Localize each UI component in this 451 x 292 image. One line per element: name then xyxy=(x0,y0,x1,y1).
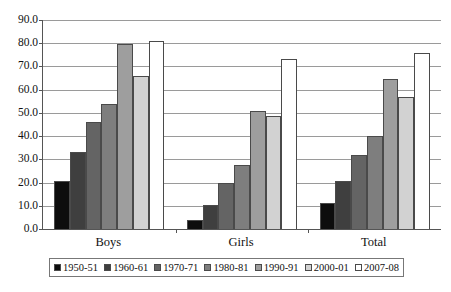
legend-label: 2000-01 xyxy=(314,262,349,273)
bar xyxy=(351,155,367,229)
bar xyxy=(398,97,414,229)
bar-set xyxy=(54,20,164,229)
y-tick-mark xyxy=(39,229,43,230)
bar xyxy=(367,136,383,229)
bar-chart: 90.080.070.060.050.040.030.020.010.00.0 … xyxy=(0,0,451,292)
bar xyxy=(133,76,149,229)
bar xyxy=(54,181,70,229)
x-axis-label: Girls xyxy=(175,233,308,253)
legend-swatch-icon xyxy=(355,264,362,271)
legend-swatch-icon xyxy=(305,264,312,271)
legend-swatch-icon xyxy=(154,264,161,271)
bar xyxy=(234,165,250,229)
y-tick-label: 20.0 xyxy=(0,177,38,189)
bar-set xyxy=(320,20,430,229)
bar xyxy=(335,181,351,229)
x-axis-labels: BoysGirlsTotal xyxy=(42,233,440,253)
legend-item[interactable]: 1980-81 xyxy=(204,262,248,273)
bar xyxy=(86,122,102,229)
legend-item[interactable]: 2007-08 xyxy=(355,262,399,273)
legend-label: 2007-08 xyxy=(364,262,399,273)
chart-legend: 1950-511960-611970-711980-811990-912000-… xyxy=(49,258,404,277)
x-axis-label: Total xyxy=(307,233,440,253)
bar xyxy=(218,183,234,229)
bar-group xyxy=(308,20,441,229)
plot-area xyxy=(42,20,440,230)
bar xyxy=(70,152,86,229)
y-tick-label: 50.0 xyxy=(0,107,38,119)
bar xyxy=(383,79,399,229)
y-tick-label: 90.0 xyxy=(0,14,38,26)
bar xyxy=(266,116,282,229)
bar xyxy=(281,59,297,229)
bar-group xyxy=(43,20,176,229)
y-tick-label: 70.0 xyxy=(0,60,38,72)
legend-swatch-icon xyxy=(204,264,211,271)
bar xyxy=(414,53,430,229)
legend-item[interactable]: 1960-61 xyxy=(104,262,148,273)
y-tick-label: 30.0 xyxy=(0,153,38,165)
legend-label: 1950-51 xyxy=(63,262,98,273)
legend-item[interactable]: 1970-71 xyxy=(154,262,198,273)
legend-label: 1990-91 xyxy=(264,262,299,273)
legend-item[interactable]: 1950-51 xyxy=(54,262,98,273)
bar-group xyxy=(176,20,309,229)
bar xyxy=(250,111,266,229)
legend-item[interactable]: 1990-91 xyxy=(255,262,299,273)
legend-item[interactable]: 2000-01 xyxy=(305,262,349,273)
x-axis-label: Boys xyxy=(42,233,175,253)
bar xyxy=(187,220,203,229)
axis-baseline xyxy=(43,229,441,230)
bar-groups xyxy=(43,20,441,229)
legend-label: 1970-71 xyxy=(163,262,198,273)
y-tick-label: 80.0 xyxy=(0,37,38,49)
bar-set xyxy=(187,20,297,229)
bar xyxy=(117,44,133,229)
bar xyxy=(320,203,336,229)
legend-swatch-icon xyxy=(54,264,61,271)
bar xyxy=(149,41,165,229)
y-tick-label: 0.0 xyxy=(0,223,38,235)
legend-label: 1980-81 xyxy=(213,262,248,273)
bar xyxy=(101,104,117,229)
y-tick-label: 10.0 xyxy=(0,200,38,212)
y-tick-label: 40.0 xyxy=(0,130,38,142)
bar xyxy=(203,205,219,229)
legend-swatch-icon xyxy=(104,264,111,271)
legend-swatch-icon xyxy=(255,264,262,271)
y-tick-label: 60.0 xyxy=(0,84,38,96)
legend-label: 1960-61 xyxy=(113,262,148,273)
